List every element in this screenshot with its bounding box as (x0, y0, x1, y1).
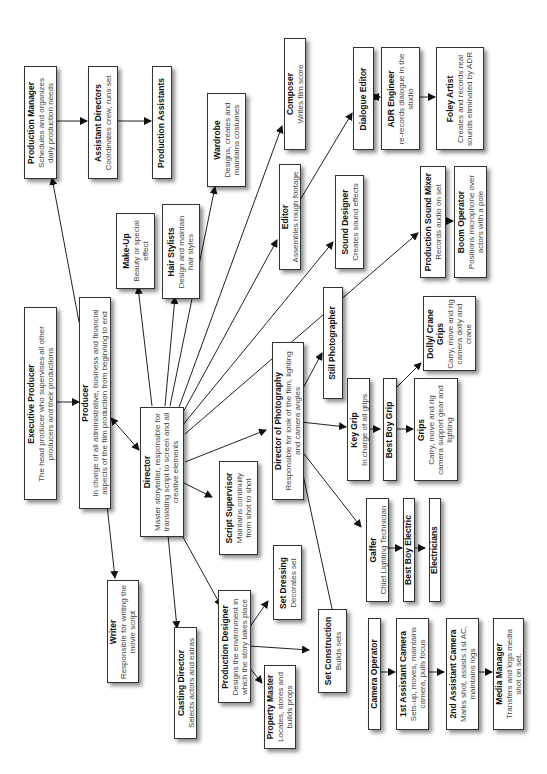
node-composer: Composer Writes film score (284, 38, 306, 150)
node-title: Editor (281, 167, 291, 267)
node-hair-stylists: Hair Stylists Design and maintain hair s… (162, 204, 200, 299)
node-title: Production Assistants (157, 70, 167, 175)
node-desc: Assembles rough footage (290, 167, 299, 267)
node-desc: Responsible for writing the movie script (119, 583, 137, 680)
node-boom-operator: Boom Operator Positions microphone over … (454, 166, 487, 278)
node-grips: Grips Carry, move and rig camera support… (414, 378, 458, 481)
node-camera-operator: Camera Operator (368, 618, 381, 730)
node-title: Camera Operator (370, 621, 380, 727)
node-adr-engineer: ADR Engineer re-records dialogue in the … (381, 47, 420, 150)
node-title: Dialogue Editor (359, 51, 369, 146)
node-property-master: Property Master Locates, stores and buil… (264, 665, 296, 749)
node-title: 1st Assistant Camera (398, 621, 408, 727)
node-title: Director of Photography (274, 346, 284, 496)
node-desc: Positions microphone over actors with a … (466, 169, 484, 275)
node-title: Electricians (430, 501, 440, 599)
node-title: Composer (286, 42, 296, 146)
node-desc: The head producer who supervises all oth… (36, 311, 54, 496)
node-title: Wardrobe (212, 97, 222, 183)
node-title: Casting Director (176, 630, 186, 736)
node-desc: Marks shot, assists 1st AC, maintains lo… (458, 621, 476, 727)
node-desc: Master storyteller, responsible for tran… (153, 410, 181, 534)
node-title: Still Photographer (328, 291, 338, 395)
node-electricians: Electricians (429, 498, 441, 602)
node-casting-director: Casting Director Selects actors and extr… (174, 627, 197, 739)
node-desc: Coordinates crew, runs set (103, 70, 112, 175)
node-desc: Writes film score (295, 42, 304, 146)
node-desc: Schedules and organizes daily production… (36, 70, 54, 175)
node-title: Executive Producer (26, 311, 36, 496)
node-set-dressing: Set Dressing Decorates set (273, 545, 302, 620)
node-title: Set Dressing (278, 548, 288, 618)
node-desc: Decorates set (288, 548, 297, 618)
node-executive-producer: Executive Producer The head producer who… (24, 307, 57, 500)
node-producer: Producer In charge of all administrative… (79, 297, 111, 509)
node-desc: Selects actors and extras (186, 630, 195, 736)
node-dialogue-editor: Dialogue Editor (353, 47, 374, 150)
node-still-photographer: Still Photographer (323, 287, 343, 399)
node-title: Director (143, 410, 153, 534)
node-desc: Records audio on set (433, 169, 442, 275)
node-assistant-directors: Assistant Directors Coordinates crew, ru… (88, 66, 118, 179)
node-desc: Maintains continuity from shot to shot (234, 464, 252, 552)
node-desc: In charge of all grips (359, 381, 368, 478)
node-script-supervisor: Script Supervisor Maintains continuity f… (219, 461, 258, 555)
node-title: Assistant Directors (94, 70, 104, 175)
node-title: Production Manager (26, 70, 36, 175)
node-title: ADR Engineer (386, 51, 396, 146)
node-desc: Design and maintain hair styles (177, 208, 195, 296)
node-title: Production Sound Mixer (424, 169, 434, 275)
node-gaffer: Gaffer Chief Lighting Technician (366, 498, 389, 602)
node-director: Director Master storyteller, responsible… (140, 407, 184, 537)
node-director-of-photography: Director of Photography Responsible for … (272, 342, 304, 500)
node-title: Property Master (266, 667, 276, 747)
node-desc: Sets-up, moves, maintains camera, pulls … (408, 621, 426, 727)
film-crew-org-chart: Production Manager Schedules and organiz… (0, 0, 547, 774)
node-title: Producer (81, 301, 91, 505)
node-desc: Designs, creates and maintains costumes (222, 97, 240, 183)
node-desc: Beauty or special effect (131, 216, 149, 286)
node-desc: Transfers and logs media shot on set. (504, 621, 522, 727)
node-editor: Editor Assembles rough footage (279, 164, 301, 270)
node-production-assistants: Production Assistants (152, 66, 172, 179)
node-title: Set Construction (323, 611, 333, 691)
node-1st-assistant-camera: 1st Assistant Camera Sets-up, moves, mai… (396, 618, 429, 730)
node-desc: Locates, stores and builds props (276, 667, 294, 747)
node-desc: Chief Lighting Technician (378, 501, 387, 599)
node-title: Writer (109, 583, 119, 680)
node-production-manager: Production Manager Schedules and organiz… (24, 66, 57, 179)
node-title: Gaffer (368, 501, 378, 599)
node-desc: Responsible for look of the film, lighti… (284, 346, 302, 496)
node-title: Best Boy Electric (404, 501, 414, 599)
node-desc: In charge of all administrative, busines… (91, 301, 109, 505)
node-2nd-assistant-camera: 2nd Assistant Camera Marks shot, assists… (446, 618, 479, 730)
node-make-up: Make-Up Beauty or special effect (116, 213, 155, 289)
node-wardrobe: Wardrobe Designs, creates and maintains … (207, 93, 246, 187)
node-title: Make-Up (121, 216, 131, 286)
node-desc: Creates sound effects (350, 178, 359, 266)
node-key-grip: Key Grip In charge of all grips (347, 378, 370, 481)
node-desc: Carry, move and rig camera dolly and cra… (445, 299, 473, 369)
node-set-construction: Set Construction Builds sets (318, 609, 347, 693)
node-title: Key Grip (349, 381, 359, 478)
node-desc: Creates and records real sounds eliminat… (456, 51, 474, 146)
node-title: Media Manager (494, 621, 504, 727)
node-title: 2nd Assistant Camera (448, 621, 458, 727)
node-title: Script Supervisor (224, 464, 234, 552)
node-desc: re-records dialogue in the studio (396, 51, 414, 146)
node-desc: Carry, move and rig camera support gear … (427, 381, 455, 478)
node-production-sound-mixer: Production Sound Mixer Records audio on … (420, 166, 446, 278)
node-writer: Writer Responsible for writing the movie… (107, 580, 139, 683)
node-production-designer: Production Designer Designs the environm… (218, 590, 251, 703)
node-best-boy-grip: Best Boy Grip (383, 378, 397, 481)
node-media-manager: Media Manager Transfers and logs media s… (493, 618, 524, 730)
node-title: Boom Operator (456, 169, 466, 275)
node-title: Hair Stylists (167, 208, 177, 296)
node-dolly-crane-grips: Dolly/ Crane Grips Carry, move and rig c… (423, 296, 476, 371)
node-title: Sound Designer (340, 178, 350, 266)
node-title: Production Designer (220, 594, 230, 700)
node-desc: Designs the environment in which the sto… (230, 594, 248, 700)
node-foley-artist: Foley Artist Creates and records real so… (436, 47, 484, 150)
node-title: Best Boy Grip (385, 381, 395, 478)
node-desc: Builds sets (333, 611, 342, 691)
